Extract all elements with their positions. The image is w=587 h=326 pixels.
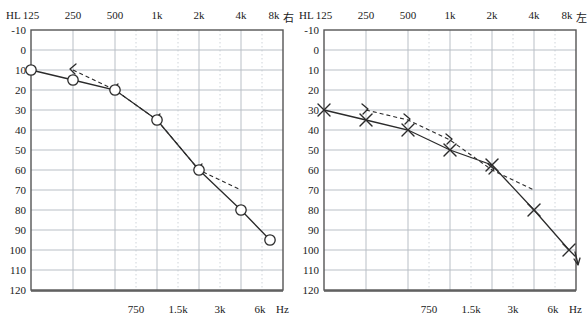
air-marker-125 [26, 65, 36, 75]
air-marker-4k [236, 205, 246, 215]
air-marker-1k [152, 115, 162, 125]
air-marker-2k [194, 165, 204, 175]
major-vertical-gridlines [73, 30, 241, 290]
air-conduction-line-left [324, 110, 569, 250]
air-conduction-line-right [31, 70, 270, 240]
audiogram-plot-left-ear [293, 0, 586, 326]
major-vertical-gridlines-2 [366, 30, 534, 290]
audiogram-panel-right-ear: HL 125 250 500 1k 2k 4k 8k 右 -10 0 10 20… [0, 0, 293, 326]
no-response-arrow-8k-left [574, 252, 580, 265]
air-conduction-markers-left [318, 104, 575, 256]
bone-marker-500-left [404, 114, 410, 124]
bone-marker-250-left [362, 104, 368, 114]
air-marker-500 [110, 85, 120, 95]
air-conduction-markers-right [26, 65, 275, 245]
air-marker-8k [265, 235, 275, 245]
audiogram-plot-right-ear [0, 0, 293, 326]
air-marker-250 [68, 75, 78, 85]
audiogram-panel-left-ear: HL 125 250 500 1k 2k 4k 8k 左 -10 0 10 20… [293, 0, 586, 326]
